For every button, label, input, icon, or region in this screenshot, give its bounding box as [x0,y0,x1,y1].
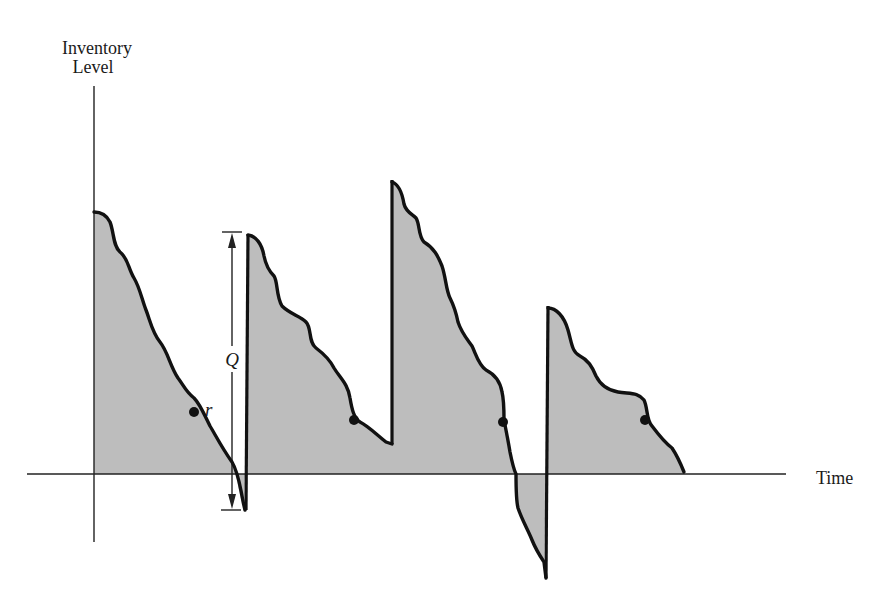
y-axis-label-line1: Inventory [62,38,132,58]
inventory-diagram: Q r Inventory Level Time [0,0,895,610]
q-arrow-up-icon [228,233,236,248]
y-axis-label-line2: Level [73,57,114,77]
reorder-point-marker-3 [498,417,508,427]
reorder-point-marker-2 [349,415,359,425]
reorder-point-label: r [205,399,213,420]
cycle-4-replenishment [546,306,548,578]
cycle-2-replenishment [246,234,248,510]
cycle-3-area [392,182,548,474]
reorder-point-marker-4 [640,415,650,425]
x-axis-label: Time [816,468,853,488]
reorder-point-marker-1 [189,407,199,417]
q-arrow-down-icon [228,494,236,509]
order-quantity-label: Q [225,349,239,370]
